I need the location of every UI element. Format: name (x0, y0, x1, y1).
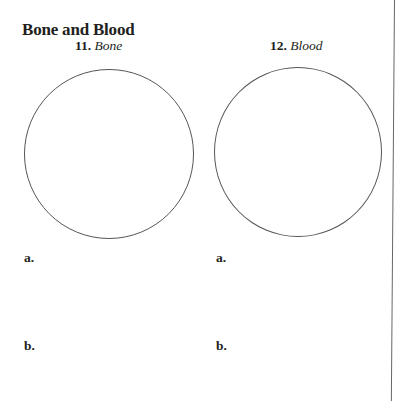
blood-answer-b-label: b. (216, 338, 227, 354)
question-number: 11. (75, 38, 91, 53)
question-term: Blood (290, 38, 322, 53)
question-12-label: 12. Blood (270, 38, 323, 54)
bone-drawing-circle[interactable] (24, 69, 194, 239)
bone-answer-b-label: b. (24, 338, 35, 354)
section-title: Bone and Blood (22, 20, 134, 40)
question-number: 12. (270, 38, 287, 53)
question-term: Bone (95, 38, 123, 53)
page-margin-rule (391, 0, 395, 401)
question-11-label: 11. Bone (75, 38, 122, 54)
bone-answer-a-label: a. (24, 250, 34, 266)
blood-drawing-circle[interactable] (214, 67, 382, 237)
blood-answer-a-label: a. (216, 250, 226, 266)
